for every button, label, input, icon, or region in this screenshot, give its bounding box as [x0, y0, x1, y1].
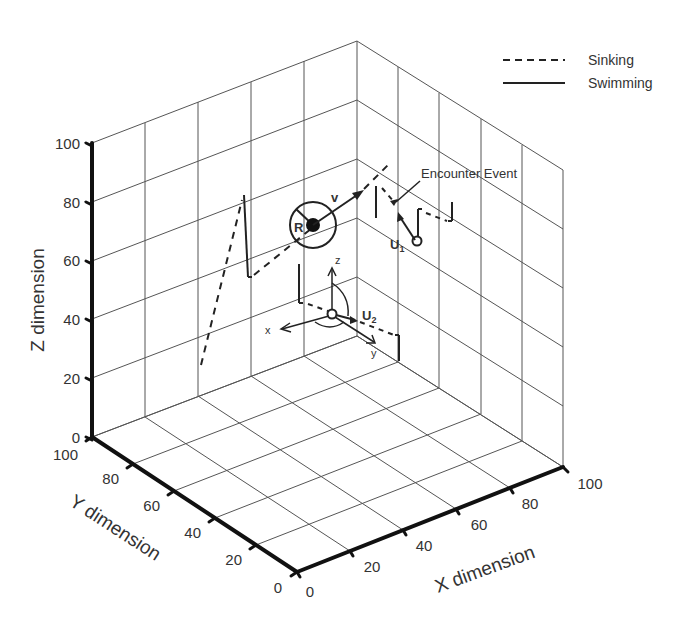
3d-encounter-diagram: 0 20 40 60 80 100 0 20 40 60 80 100 0 20… — [0, 0, 698, 632]
u2-label: U2 — [362, 308, 376, 325]
svg-text:60: 60 — [143, 497, 160, 514]
svg-text:40: 40 — [184, 524, 201, 541]
local-x-label: x — [265, 324, 271, 336]
velocity-arrowhead — [352, 190, 364, 200]
local-z-label: z — [335, 254, 341, 266]
legend-swimming-label: Swimming — [588, 75, 653, 91]
svg-text:60: 60 — [63, 252, 80, 269]
svg-text:40: 40 — [416, 537, 433, 554]
prey-u1: Encounter Event U1 — [376, 166, 518, 254]
floor-grid — [92, 336, 563, 572]
v-label: v — [331, 190, 339, 205]
svg-text:40: 40 — [63, 311, 80, 328]
back-left-wall-grid — [92, 41, 357, 437]
svg-text:80: 80 — [102, 470, 119, 487]
svg-text:0: 0 — [274, 579, 282, 596]
x-axis-title: X dimension — [432, 541, 537, 596]
legend-sinking-label: Sinking — [588, 52, 634, 68]
r-label: R — [294, 220, 304, 235]
back-right-wall-grid — [357, 41, 563, 467]
u1-label: U1 — [390, 237, 404, 254]
svg-text:80: 80 — [63, 194, 80, 211]
svg-text:20: 20 — [63, 370, 80, 387]
z-axis-title: Z dimension — [27, 248, 48, 352]
svg-text:0: 0 — [72, 429, 80, 446]
local-y-label: y — [371, 347, 377, 359]
encounter-event-label: Encounter Event — [421, 166, 518, 181]
svg-text:20: 20 — [364, 558, 381, 575]
svg-text:0: 0 — [306, 583, 314, 600]
svg-text:100: 100 — [53, 446, 78, 463]
legend: Sinking Swimming — [503, 52, 653, 91]
y-axis — [92, 437, 297, 572]
svg-text:20: 20 — [225, 551, 242, 568]
svg-text:100: 100 — [55, 135, 80, 152]
prey-u2: z x y U2 — [265, 254, 399, 361]
z-tick-labels: 0 20 40 60 80 100 — [55, 135, 80, 446]
svg-text:80: 80 — [522, 495, 539, 512]
svg-text:100: 100 — [577, 475, 602, 492]
encounter-marker — [390, 199, 398, 206]
svg-text:60: 60 — [471, 516, 488, 533]
